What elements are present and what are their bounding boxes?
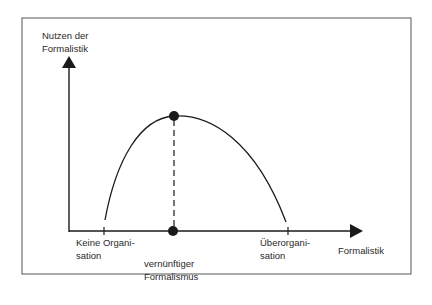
y-axis-arrow-icon: [62, 56, 76, 68]
left-marker-label-line2: sation: [76, 249, 101, 262]
right-marker-label-line1: Überorgani-: [260, 236, 310, 249]
x-axis-label: Formalistik: [338, 244, 384, 257]
utility-curve: [105, 116, 286, 222]
mid-marker-label-line1: vernünftiger: [144, 257, 194, 270]
mid-marker-label-line2: Formalismus: [144, 270, 198, 283]
x-axis-arrow-icon: [350, 224, 363, 238]
y-axis-label-line1: Nutzen der: [42, 29, 88, 42]
left-marker-label-line1: Keine Organi-: [76, 236, 135, 249]
optimum-dot-icon: [169, 111, 179, 121]
optimum-axis-dot-icon: [168, 226, 178, 236]
formalism-utility-diagram: Nutzen der Formalistik Keine Organi- sat…: [0, 0, 432, 305]
right-marker-label-line2: sation: [260, 249, 285, 262]
y-axis-label-line2: Formalistik: [42, 42, 88, 55]
